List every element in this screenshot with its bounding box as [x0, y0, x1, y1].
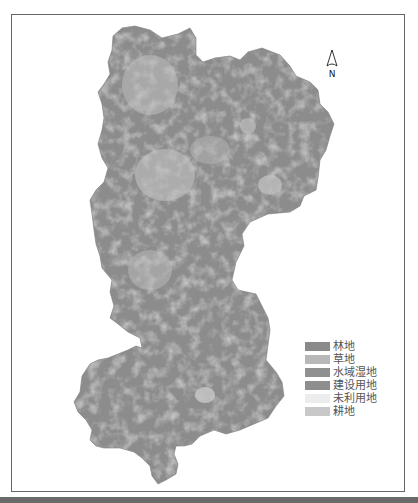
- legend-label: 未利用地: [333, 392, 377, 405]
- legend-swatch: [305, 381, 330, 390]
- legend-label: 林地: [333, 340, 355, 353]
- legend-item-grassland: 草地: [305, 353, 377, 366]
- legend-swatch: [305, 407, 330, 416]
- legend-label: 耕地: [333, 405, 355, 418]
- bottom-band: [0, 497, 418, 503]
- north-arrow-icon: [322, 48, 342, 70]
- legend-item-construction-land: 建设用地: [305, 379, 377, 392]
- legend-swatch: [305, 342, 330, 351]
- land-use-map: [0, 0, 418, 503]
- legend-label: 草地: [333, 353, 355, 366]
- legend-item-unused-land: 未利用地: [305, 392, 377, 405]
- legend-swatch: [305, 368, 330, 377]
- legend-label: 水域湿地: [333, 366, 377, 379]
- legend-swatch: [305, 355, 330, 364]
- north-label: N: [322, 69, 342, 79]
- north-arrow: N: [322, 48, 342, 80]
- legend-label: 建设用地: [333, 379, 377, 392]
- legend-item-forest: 林地: [305, 340, 377, 353]
- map-legend: 林地 草地 水域湿地 建设用地 未利用地 耕地: [305, 340, 377, 418]
- legend-item-cropland: 耕地: [305, 405, 377, 418]
- legend-item-water-wetland: 水域湿地: [305, 366, 377, 379]
- legend-swatch: [305, 394, 330, 403]
